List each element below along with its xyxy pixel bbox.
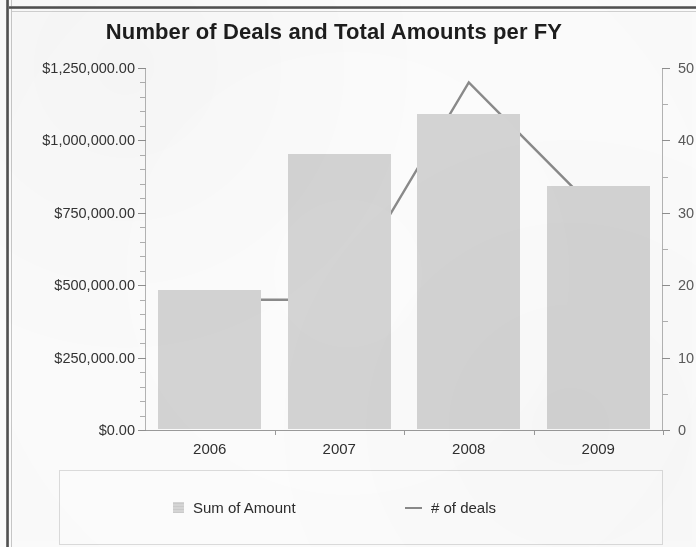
y-axis-left-minor-tick [140, 387, 146, 388]
bar-2009[interactable] [547, 186, 650, 429]
y-axis-right-major-tick [662, 140, 670, 141]
y-axis-left-minor-tick [140, 227, 146, 228]
y-axis-left-minor-tick [140, 111, 146, 112]
y-axis-right-tick-label: 20 [678, 277, 694, 293]
y-axis-left-minor-tick [140, 242, 146, 243]
y-axis-left-major-tick [138, 213, 146, 214]
y-axis-right-minor-tick [662, 177, 668, 178]
y-axis-right-major-tick [662, 358, 670, 359]
y-axis-left-tick-label: $500,000.00 [54, 277, 135, 293]
y-axis-left-minor-tick [140, 126, 146, 127]
bar-swatch-icon [173, 502, 184, 513]
y-axis-left-minor-tick [140, 329, 146, 330]
y-axis-right-major-tick [662, 285, 670, 286]
x-axis-tick [534, 430, 535, 435]
y-axis-left-major-tick [138, 68, 146, 69]
bar-2008[interactable] [417, 114, 520, 429]
y-axis-right-major-tick [662, 68, 670, 69]
y-axis-right-minor-tick [662, 104, 668, 105]
y-axis-right-tick-label: 10 [678, 350, 694, 366]
scan-edge-left [6, 0, 9, 547]
y-axis-left-minor-tick [140, 314, 146, 315]
y-axis-left-major-tick [138, 140, 146, 141]
scan-edge-left-inner [11, 0, 12, 547]
y-axis-left-tick-label: $1,000,000.00 [42, 132, 135, 148]
y-axis-left-tick-label: $1,250,000.00 [42, 60, 135, 76]
line-swatch-icon [405, 502, 422, 513]
plot-area: $0.00$250,000.00$500,000.00$750,000.00$1… [145, 68, 663, 430]
y-axis-left-minor-tick [140, 300, 146, 301]
y-axis-left-minor-tick [140, 169, 146, 170]
y-axis-left-minor-tick [140, 155, 146, 156]
y-axis-left-minor-tick [140, 198, 146, 199]
bar-2006[interactable] [158, 290, 261, 429]
y-axis-left-minor-tick [140, 82, 146, 83]
y-axis-right-minor-tick [662, 321, 668, 322]
x-axis-tick-label-2009: 2009 [582, 440, 615, 457]
y-axis-right-tick-label: 30 [678, 205, 694, 221]
x-axis-tick [663, 430, 664, 435]
y-axis-left-tick-label: $0.00 [99, 422, 135, 438]
legend-item-label: Sum of Amount [193, 499, 296, 516]
legend-item-sum-of-amount[interactable]: Sum of Amount [173, 499, 296, 516]
y-axis-right-minor-tick [662, 249, 668, 250]
y-axis-left-minor-tick [140, 97, 146, 98]
x-axis-tick [404, 430, 405, 435]
y-axis-right-tick-label: 40 [678, 132, 694, 148]
bar-2007[interactable] [288, 154, 391, 429]
legend-item-label: # of deals [431, 499, 496, 516]
y-axis-left-tick-label: $250,000.00 [54, 350, 135, 366]
x-axis-tick-label-2007: 2007 [323, 440, 356, 457]
y-axis-left-minor-tick [140, 343, 146, 344]
y-axis-left-major-tick [138, 358, 146, 359]
x-axis-tick-label-2008: 2008 [452, 440, 485, 457]
chart-container: Number of Deals and Total Amounts per FY… [14, 13, 692, 541]
x-axis-tick-label-2006: 2006 [193, 440, 226, 457]
y-axis-left-major-tick [138, 430, 146, 431]
y-axis-left-minor-tick [140, 416, 146, 417]
x-axis-tick [275, 430, 276, 435]
scan-edge-top-inner [12, 11, 696, 12]
y-axis-left-minor-tick [140, 401, 146, 402]
y-axis-left-minor-tick [140, 271, 146, 272]
y-axis-right-minor-tick [662, 394, 668, 395]
y-axis-right-tick-label: 50 [678, 60, 694, 76]
y-axis-left-minor-tick [140, 184, 146, 185]
y-axis-right-tick-label: 0 [678, 422, 686, 438]
y-axis-left-minor-tick [140, 256, 146, 257]
legend-item-number-of-deals[interactable]: # of deals [405, 499, 496, 516]
y-axis-right-major-tick [662, 213, 670, 214]
y-axis-left-tick-label: $750,000.00 [54, 205, 135, 221]
y-axis-left-minor-tick [140, 372, 146, 373]
scan-edge-top [9, 6, 696, 9]
chart-screenshot: Number of Deals and Total Amounts per FY… [0, 0, 696, 547]
legend: Sum of Amount# of deals [59, 470, 663, 545]
line-series-#-of-deals[interactable] [210, 83, 599, 300]
y-axis-left-major-tick [138, 285, 146, 286]
chart-title: Number of Deals and Total Amounts per FY [14, 19, 654, 45]
